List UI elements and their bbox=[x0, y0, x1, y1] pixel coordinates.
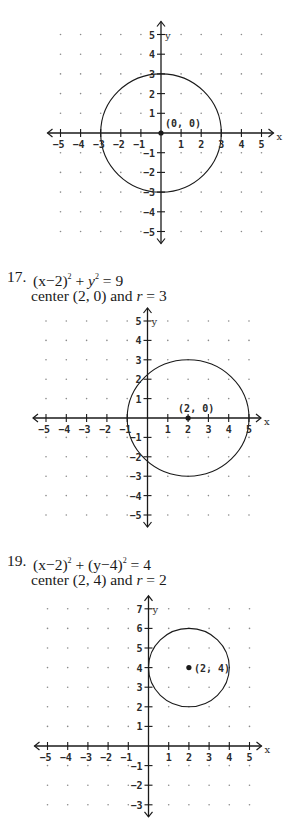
x-tick-label: −5 bbox=[39, 752, 51, 763]
y-tick-label: 1 bbox=[149, 108, 155, 119]
center-point bbox=[186, 665, 191, 670]
y-tick-label: 5 bbox=[149, 30, 155, 41]
x-axis-label: x bbox=[265, 744, 271, 755]
radius-value: = 2 bbox=[142, 571, 166, 588]
y-axis-label: y bbox=[152, 604, 159, 615]
center-point-label: (0, 0) bbox=[165, 118, 201, 129]
x-tick-label: −2 bbox=[99, 424, 111, 435]
x-axis-label: x bbox=[264, 416, 270, 427]
center-radius-text: center (2, 0) and r = 3 bbox=[31, 287, 167, 305]
graph-circle-origin-r3: −5−4−3−2−112345−5−4−3−2−112345xy(0, 0) bbox=[0, 20, 285, 248]
x-tick-label: −3 bbox=[79, 424, 91, 435]
x-tick-label: 5 bbox=[258, 139, 264, 150]
problem-number: 17. bbox=[7, 268, 26, 286]
coordinate-plane: −5−4−3−2−112345−3−2−11234567xy(2, 4) bbox=[0, 594, 285, 820]
x-tick-label: 3 bbox=[206, 752, 212, 763]
x-tick-label: −5 bbox=[52, 139, 64, 150]
x-tick-label: −2 bbox=[113, 139, 125, 150]
x-tick-label: 5 bbox=[246, 424, 252, 435]
x-tick-label: −3 bbox=[80, 752, 92, 763]
x-axis-label: x bbox=[277, 131, 283, 142]
y-tick-label: −1 bbox=[143, 148, 155, 159]
center-text: center (2, 0) and bbox=[31, 287, 136, 304]
graph-circle-2-0-r3: −5−4−3−2−112345−5−4−3−2−112345xy(2, 0) bbox=[0, 305, 285, 530]
y-tick-label: 3 bbox=[136, 682, 142, 693]
y-tick-label: −5 bbox=[129, 510, 141, 521]
y-tick-label: 2 bbox=[149, 89, 155, 100]
y-tick-label: 4 bbox=[136, 663, 142, 674]
y-tick-label: 7 bbox=[136, 604, 142, 615]
y-tick-label: 3 bbox=[135, 355, 141, 366]
y-tick-label: 1 bbox=[136, 721, 142, 732]
center-point bbox=[158, 130, 163, 135]
x-tick-label: −4 bbox=[73, 139, 85, 150]
x-tick-label: 1 bbox=[165, 424, 171, 435]
y-tick-label: −4 bbox=[143, 207, 155, 218]
y-tick-label: −5 bbox=[143, 227, 155, 238]
problem-number: 19. bbox=[7, 552, 26, 570]
x-tick-label: 5 bbox=[246, 752, 252, 763]
y-tick-label: 2 bbox=[135, 374, 141, 385]
y-tick-label: 4 bbox=[135, 335, 141, 346]
x-tick-label: −5 bbox=[38, 424, 50, 435]
y-tick-label: 2 bbox=[136, 702, 142, 713]
y-tick-label: −3 bbox=[143, 187, 155, 198]
x-tick-label: −4 bbox=[58, 424, 70, 435]
y-tick-label: −1 bbox=[129, 432, 141, 443]
x-tick-label: 1 bbox=[178, 139, 184, 150]
center-point-label: (2, 0) bbox=[178, 403, 214, 414]
y-tick-label: 1 bbox=[135, 394, 141, 405]
center-point bbox=[186, 415, 191, 420]
y-axis-label: y bbox=[164, 30, 171, 41]
x-tick-label: 4 bbox=[226, 752, 232, 763]
y-tick-label: 4 bbox=[149, 49, 155, 60]
x-tick-label: −2 bbox=[100, 752, 112, 763]
graph-circle-2-4-r2: −5−4−3−2−112345−3−2−11234567xy(2, 4) bbox=[0, 594, 285, 820]
coordinate-plane: −5−4−3−2−112345−5−4−3−2−112345xy(2, 0) bbox=[0, 305, 285, 530]
center-point-label: (2, 4) bbox=[194, 663, 230, 674]
x-tick-label: 2 bbox=[186, 752, 192, 763]
x-tick-label: 2 bbox=[185, 424, 191, 435]
y-tick-label: −1 bbox=[130, 761, 142, 772]
x-tick-label: −3 bbox=[93, 139, 105, 150]
y-tick-label: 5 bbox=[136, 643, 142, 654]
y-tick-label: −2 bbox=[130, 780, 142, 791]
y-tick-label: 3 bbox=[149, 69, 155, 80]
x-tick-label: 3 bbox=[218, 139, 224, 150]
y-tick-label: −3 bbox=[129, 471, 141, 482]
x-tick-label: 4 bbox=[238, 139, 244, 150]
y-tick-label: 6 bbox=[136, 623, 142, 634]
radius-value: = 3 bbox=[142, 287, 166, 304]
y-tick-label: −2 bbox=[129, 452, 141, 463]
y-tick-label: −4 bbox=[129, 491, 141, 502]
y-tick-label: 5 bbox=[135, 316, 141, 327]
x-tick-label: 1 bbox=[166, 752, 172, 763]
coordinate-plane: −5−4−3−2−112345−5−4−3−2−112345xy(0, 0) bbox=[0, 20, 285, 248]
center-text: center (2, 4) and bbox=[31, 571, 136, 588]
x-tick-label: 4 bbox=[226, 424, 232, 435]
y-tick-label: −3 bbox=[130, 800, 142, 811]
x-tick-label: 3 bbox=[205, 424, 211, 435]
center-radius-text: center (2, 4) and r = 2 bbox=[31, 571, 167, 589]
x-tick-label: −4 bbox=[60, 752, 72, 763]
y-axis-label: y bbox=[151, 316, 158, 327]
x-tick-label: 2 bbox=[198, 139, 204, 150]
y-tick-label: −2 bbox=[143, 167, 155, 178]
